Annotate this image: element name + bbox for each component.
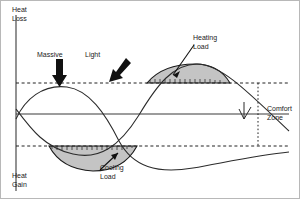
figure-container: Heat Loss Heat Gain Massive Light Heatin… (0, 0, 300, 199)
y-axis-bottom-label: Heat Gain (12, 172, 27, 189)
y-axis-top-label: Heat Loss (12, 6, 27, 23)
massive-label: Massive (37, 51, 63, 60)
curve-crossing-mark (239, 102, 251, 119)
massive-arrow-icon (52, 59, 67, 87)
heating-load-area (147, 64, 230, 83)
heating-load-label: Heating Load (193, 34, 217, 51)
comfort-zone-label: Comfort Zone (267, 105, 292, 122)
diagram-canvas (1, 1, 300, 199)
light-label: Light (85, 51, 100, 60)
cooling-load-label: Cooling Load (100, 164, 124, 181)
light-arrow-icon (109, 58, 131, 82)
